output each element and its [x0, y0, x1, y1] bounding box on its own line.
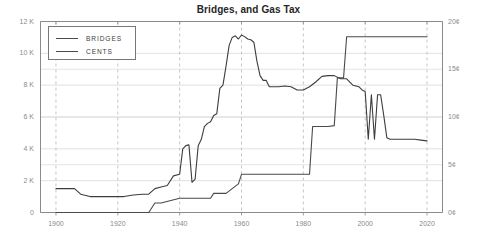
legend-label: BRIDGES — [86, 35, 122, 42]
y-axis-right-tick-label: 15¢ — [448, 65, 474, 73]
y-axis-left-tick-label: 8 K — [8, 81, 34, 89]
y-axis-left-tick-label: 10 K — [8, 49, 34, 57]
legend-label: CENTS — [86, 48, 113, 55]
y-axis-right-tick-label: 20¢ — [448, 18, 474, 26]
x-axis-tick-label: 1980 — [286, 220, 320, 228]
x-axis-tick-label: 1900 — [39, 220, 73, 228]
y-axis-left-tick-label: 6 K — [8, 113, 34, 121]
y-axis-left-tick-label: 0 — [8, 209, 34, 217]
chart-legend: BRIDGES CENTS — [48, 26, 136, 60]
x-axis-tick-label: 1920 — [101, 220, 135, 228]
y-axis-left-tick-label: 2 K — [8, 177, 34, 185]
legend-item-cents: CENTS — [49, 45, 135, 57]
x-axis-tick-label: 2000 — [348, 220, 382, 228]
y-axis-right-tick-label: 10¢ — [448, 113, 474, 121]
y-axis-right-tick-label: 5¢ — [448, 161, 474, 169]
y-axis-right-tick-label: 0¢ — [448, 209, 474, 217]
legend-swatch-icon — [56, 38, 78, 39]
chart-container: Bridges, and Gas Tax 02 K4 K6 K8 K10 K12… — [0, 0, 497, 239]
y-axis-left-tick-label: 12 K — [8, 18, 34, 26]
x-axis-tick-label: 1960 — [225, 220, 259, 228]
legend-item-bridges: BRIDGES — [49, 32, 135, 44]
y-axis-left-tick-label: 4 K — [8, 145, 34, 153]
x-axis-tick-label: 1940 — [163, 220, 197, 228]
x-axis-tick-label: 2020 — [410, 220, 444, 228]
legend-swatch-icon — [56, 51, 78, 52]
